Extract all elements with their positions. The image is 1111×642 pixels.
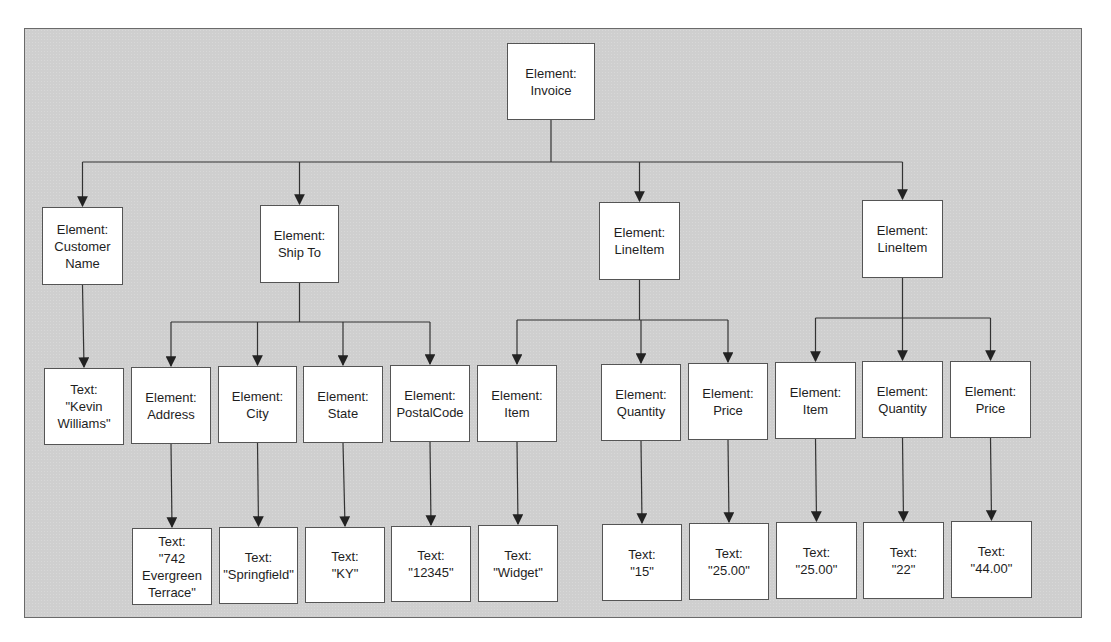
node-address: Element: Address [131,367,211,444]
node-text-quantity-2: Text: "22" [863,522,944,599]
node-label: Element: Quantity [877,383,928,417]
node-label: Element: City [232,388,283,422]
node-text-address: Text: "742 Evergreen Terrace" [132,528,212,605]
node-label: Text: "Kevin Williams" [58,381,111,432]
node-text-postal: Text: "12345" [391,526,471,602]
node-item-1: Element: Item [477,365,557,442]
node-label: Text: "KY" [331,548,358,582]
node-invoice: Element: Invoice [507,43,595,120]
node-city: Element: City [218,366,297,443]
node-text-city: Text: "Springfield" [219,527,298,604]
node-text-price-1: Text: "25.00" [689,523,769,600]
node-label: Element: Customer Name [54,221,110,272]
node-label: Element: LineItem [614,224,665,258]
node-label: Element: PostalCode [396,387,463,421]
node-label: Element: LineItem [877,222,928,256]
node-item-2: Element: Item [775,362,856,439]
node-label: Element: Item [790,384,841,418]
node-label: Text: "44.00" [971,543,1013,577]
node-label: Element: Item [491,387,542,421]
node-label: Element: Quantity [615,386,666,420]
node-label: Text: "Widget" [493,547,543,581]
node-customer-name: Element: Customer Name [42,207,123,285]
node-label: Text: "25.00" [796,544,838,578]
node-text-price-2: Text: "44.00" [951,521,1032,598]
node-label: Text: "22" [890,544,917,578]
node-label: Text: "12345" [408,547,453,581]
node-label: Element: Ship To [274,227,325,261]
node-text-state: Text: "KY" [305,527,385,603]
node-quantity-1: Element: Quantity [601,364,681,441]
node-label: Text: "15" [628,546,655,580]
node-label: Element: Price [965,383,1016,417]
node-ship-to: Element: Ship To [260,205,339,283]
node-quantity-2: Element: Quantity [862,361,943,438]
node-text-item-2: Text: "25.00" [776,522,857,599]
node-label: Element: State [317,388,368,422]
node-text-item-1: Text: "Widget" [478,525,558,602]
node-line-item-2: Element: LineItem [862,200,943,278]
node-price-1: Element: Price [688,363,768,440]
node-state: Element: State [303,366,383,443]
node-price-2: Element: Price [950,361,1031,438]
node-label: Element: Address [145,389,196,423]
node-postal-code: Element: PostalCode [390,365,470,442]
node-label: Element: Price [702,385,753,419]
node-text-kevin: Text: "Kevin Williams" [44,368,124,445]
node-text-quantity-1: Text: "15" [602,524,682,601]
node-label: Text: "742 Evergreen Terrace" [142,533,202,601]
node-label: Text: "25.00" [708,545,750,579]
node-label: Text: "Springfield" [223,549,294,583]
node-line-item-1: Element: LineItem [599,202,680,280]
node-label: Element: Invoice [525,65,576,99]
